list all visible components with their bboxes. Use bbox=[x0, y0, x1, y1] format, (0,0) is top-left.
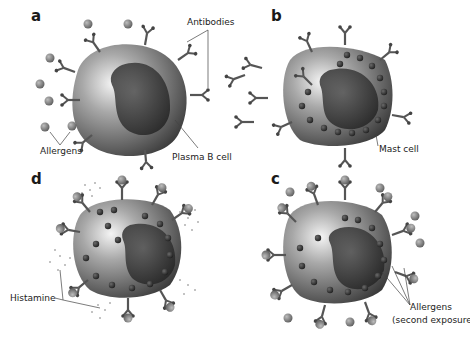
allergy-diagram bbox=[0, 0, 470, 338]
label-allergens-second: Allergens bbox=[392, 302, 470, 312]
label-plasma-b-cell: Plasma B cell bbox=[172, 152, 232, 162]
label-mast-cell: Mast cell bbox=[379, 144, 419, 154]
label-allergens: Allergens bbox=[40, 146, 82, 156]
label-histamine: Histamine bbox=[10, 293, 56, 303]
label-antibodies: Antibodies bbox=[187, 17, 235, 27]
panel-letter-a: a bbox=[31, 7, 41, 25]
label-second-exposure: (second exposure) bbox=[392, 315, 470, 325]
panel-letter-c: c bbox=[271, 170, 280, 188]
panel-d-degranulation bbox=[49, 176, 199, 323]
panel-letter-b: b bbox=[271, 7, 282, 25]
free-antibody-icon bbox=[224, 56, 268, 128]
panel-letter-d: d bbox=[31, 170, 42, 188]
